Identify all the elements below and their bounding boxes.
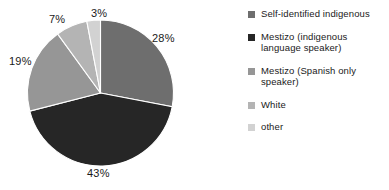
- pie-chart-svg: [0, 0, 210, 190]
- legend-item-label: White: [261, 99, 286, 111]
- legend-item-label: Mestizo (Spanish onlyspeaker): [261, 65, 356, 88]
- legend-color-swatch: [248, 11, 255, 18]
- legend-item-label: Mestizo (indigenouslanguage speaker): [261, 31, 347, 54]
- pie-slice-label-28: 28%: [152, 33, 175, 44]
- pie-slice-label-43: 43%: [87, 168, 110, 179]
- legend-item: Mestizo (indigenouslanguage speaker): [248, 31, 389, 54]
- legend-item: White: [248, 99, 389, 111]
- legend-color-swatch: [248, 68, 255, 75]
- pie-chart-plot-area: 28% 43% 19% 7% 3%: [0, 0, 210, 190]
- legend-item-label: other: [261, 121, 283, 133]
- legend-item-label: Self-identified indigenous: [261, 8, 370, 20]
- pie-slice-label-3: 3%: [91, 8, 107, 19]
- legend-item: Self-identified indigenous: [248, 8, 389, 20]
- chart-legend: Self-identified indigenousMestizo (indig…: [248, 8, 389, 144]
- legend-color-swatch: [248, 34, 255, 41]
- legend-color-swatch: [248, 102, 255, 109]
- pie-chart-figure: 28% 43% 19% 7% 3% Self-identified indige…: [0, 0, 389, 190]
- pie-slice-label-7: 7%: [49, 14, 65, 25]
- pie-slice-label-19: 19%: [9, 56, 32, 67]
- legend-item: other: [248, 121, 389, 133]
- legend-color-swatch: [248, 124, 255, 131]
- legend-item: Mestizo (Spanish onlyspeaker): [248, 65, 389, 88]
